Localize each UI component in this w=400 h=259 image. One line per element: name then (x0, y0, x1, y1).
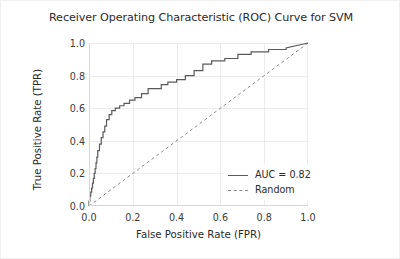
y-tick-2: 0.4 (59, 135, 85, 146)
legend-line-sample-dashed-icon (227, 185, 249, 195)
legend-item-random: Random (227, 182, 311, 197)
x-tick-3: 0.6 (200, 212, 240, 223)
y-tick-5: 1.0 (59, 38, 85, 49)
y-axis-label: True Positive Rate (TPR) (32, 48, 43, 211)
y-tick-0: 0.0 (59, 201, 85, 212)
roc-chart-figure: Receiver Operating Characteristic (ROC) … (0, 0, 400, 259)
legend-label-auc: AUC = 0.82 (249, 169, 311, 180)
x-tick-4: 0.8 (244, 212, 284, 223)
legend-line-sample-solid-icon (227, 170, 249, 180)
x-axis-tick-labels: 0.0 0.2 0.4 0.6 0.8 1.0 (89, 212, 308, 226)
page-title: Receiver Operating Characteristic (ROC) … (1, 11, 400, 24)
y-axis-tick-labels: 0.0 0.2 0.4 0.6 0.8 1.0 (55, 43, 85, 206)
chart-legend: AUC = 0.82 Random (223, 164, 315, 200)
legend-label-random: Random (249, 184, 295, 195)
y-tick-1: 0.2 (59, 168, 85, 179)
x-axis-label: False Positive Rate (FPR) (89, 229, 308, 240)
x-tick-1: 0.2 (113, 212, 153, 223)
y-tick-3: 0.6 (59, 103, 85, 114)
y-tick-4: 0.8 (59, 70, 85, 81)
x-tick-0: 0.0 (69, 212, 109, 223)
legend-item-auc: AUC = 0.82 (227, 167, 311, 182)
x-tick-5: 1.0 (288, 212, 328, 223)
x-tick-2: 0.4 (157, 212, 197, 223)
